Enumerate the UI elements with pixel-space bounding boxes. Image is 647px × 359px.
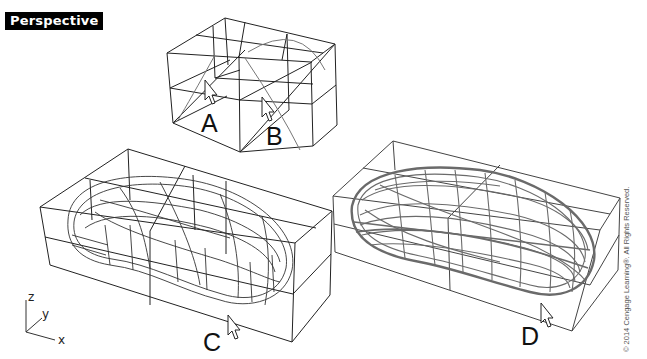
axis-triad xyxy=(26,300,55,340)
axis-y-label: y xyxy=(42,308,49,320)
perspective-viewport[interactable]: Perspective xyxy=(0,0,647,359)
axis-x-label: x xyxy=(58,334,65,346)
top-bounding-box xyxy=(167,18,337,152)
wireframe-scene xyxy=(0,0,647,359)
label-b: B xyxy=(266,124,283,149)
cursor-d-icon xyxy=(541,303,553,327)
cursor-c-icon xyxy=(228,315,240,339)
copyright-notice: © 2014 Cengage Learning®. All Rights Res… xyxy=(622,187,631,352)
axis-z-label: z xyxy=(28,291,34,303)
label-c: C xyxy=(203,330,221,355)
label-a: A xyxy=(201,111,218,136)
cursor-icons xyxy=(205,80,553,339)
label-d: D xyxy=(521,324,539,349)
d-mouse-wireframe xyxy=(352,168,595,295)
cursor-a-icon xyxy=(205,80,217,104)
c-bounding-box xyxy=(40,149,332,342)
